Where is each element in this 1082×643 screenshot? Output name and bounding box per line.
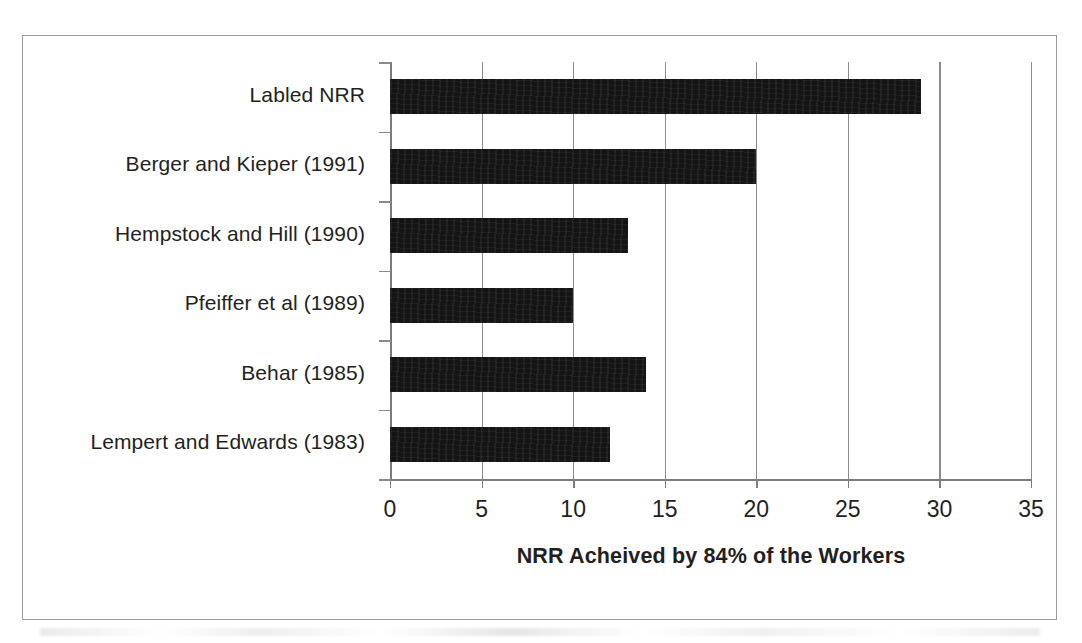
x-tick-label-35: 35 bbox=[1001, 496, 1061, 523]
bar bbox=[390, 149, 756, 184]
bar bbox=[390, 218, 628, 253]
x-tick-label-25: 25 bbox=[818, 496, 878, 523]
x-tick-20 bbox=[756, 479, 757, 488]
y-tick-3 bbox=[379, 271, 391, 273]
x-tick-label-10: 10 bbox=[543, 496, 603, 523]
x-tick-35 bbox=[1031, 479, 1032, 488]
bar bbox=[390, 79, 921, 114]
scan-artifact bbox=[40, 628, 1040, 636]
x-tick-label-0: 0 bbox=[360, 496, 420, 523]
x-tick-label-5: 5 bbox=[452, 496, 512, 523]
y-tick-6 bbox=[379, 479, 391, 481]
y-tick-0 bbox=[379, 62, 391, 64]
bar bbox=[390, 357, 646, 392]
gridline-35 bbox=[1031, 62, 1032, 479]
x-tick-25 bbox=[848, 479, 849, 488]
y-tick-2 bbox=[379, 201, 391, 203]
plot-area bbox=[390, 62, 1031, 479]
category-label: Berger and Kieper (1991) bbox=[25, 152, 365, 176]
category-label: Pfeiffer et al (1989) bbox=[25, 291, 365, 315]
y-tick-1 bbox=[379, 132, 391, 134]
x-tick-label-30: 30 bbox=[909, 496, 969, 523]
x-tick-label-20: 20 bbox=[726, 496, 786, 523]
x-tick-label-15: 15 bbox=[635, 496, 695, 523]
x-axis-title: NRR Acheived by 84% of the Workers bbox=[390, 544, 1032, 569]
bar-chart: Labled NRRBerger and Kieper (1991)Hempst… bbox=[23, 36, 1058, 621]
category-label: Labled NRR bbox=[25, 83, 365, 107]
x-tick-30 bbox=[939, 479, 940, 488]
category-labels: Labled NRRBerger and Kieper (1991)Hempst… bbox=[23, 62, 379, 479]
category-label: Hempstock and Hill (1990) bbox=[25, 222, 365, 246]
x-tick-5 bbox=[482, 479, 483, 488]
y-tick-5 bbox=[379, 410, 391, 412]
category-label: Lempert and Edwards (1983) bbox=[25, 430, 365, 454]
figure-frame: Labled NRRBerger and Kieper (1991)Hempst… bbox=[22, 35, 1057, 620]
bar bbox=[390, 427, 610, 462]
x-tick-15 bbox=[665, 479, 666, 488]
category-label: Behar (1985) bbox=[25, 361, 365, 385]
bar bbox=[390, 288, 573, 323]
x-tick-10 bbox=[573, 479, 574, 488]
x-axis-line bbox=[390, 479, 1032, 481]
y-tick-4 bbox=[379, 340, 391, 342]
